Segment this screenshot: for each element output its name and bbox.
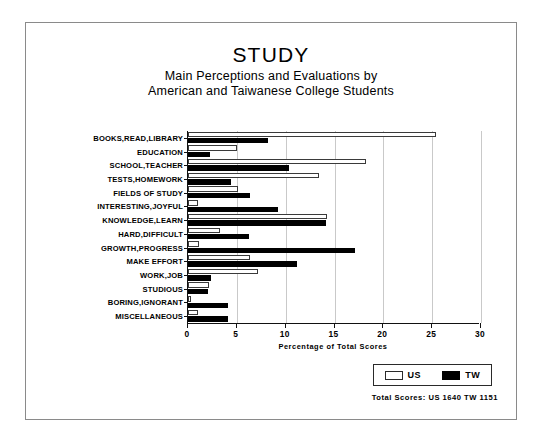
bar-us: [188, 296, 191, 301]
x-axis-tick: [236, 323, 237, 328]
page-title: STUDY: [26, 43, 516, 67]
bar-tw: [188, 165, 289, 170]
chart-row: BOOKS,READ,LIBRARY: [188, 131, 480, 145]
bar-us: [188, 200, 198, 205]
legend-label-tw: TW: [465, 370, 480, 380]
x-axis: 051015202530: [187, 323, 479, 324]
chart-figure: STUDY Main Perceptions and Evaluations b…: [25, 22, 517, 420]
bar-us: [188, 145, 237, 150]
category-label: INTERESTING,JOYFUL: [97, 202, 183, 211]
x-axis-tick: [431, 323, 432, 328]
bar-us: [188, 282, 209, 287]
chart-row: MISCELLANEOUS: [188, 309, 480, 323]
chart-row: HARD,DIFFICULT: [188, 227, 480, 241]
bar-us: [188, 269, 258, 274]
category-label: MISCELLANEOUS: [115, 312, 183, 321]
bar-us: [188, 255, 250, 260]
category-label: KNOWLEDGE,LEARN: [102, 216, 183, 225]
bar-us: [188, 186, 238, 191]
chart-row: TESTS,HOMEWORK: [188, 172, 480, 186]
bar-tw: [188, 289, 208, 294]
category-label: GROWTH,PROGRESS: [101, 243, 183, 252]
x-axis-tick-label: 30: [475, 329, 485, 339]
chart-row: GROWTH,PROGRESS: [188, 241, 480, 255]
x-axis-tick: [334, 323, 335, 328]
gridline: [481, 131, 482, 323]
bar-tw: [188, 248, 355, 253]
legend-entry-tw: TW: [442, 370, 480, 380]
x-axis-tick: [285, 323, 286, 328]
category-label: WORK,JOB: [140, 270, 183, 279]
x-axis-tick-label: 20: [377, 329, 387, 339]
bar-us: [188, 132, 436, 137]
bar-tw: [188, 138, 268, 143]
legend-entry-us: US: [385, 370, 422, 380]
x-axis-tick-label: 10: [280, 329, 290, 339]
bar-us: [188, 228, 220, 233]
bar-us: [188, 173, 319, 178]
category-label: MAKE EFFORT: [127, 257, 184, 266]
legend-swatch-us-icon: [385, 371, 403, 380]
bar-tw: [188, 220, 326, 225]
title-block: STUDY Main Perceptions and Evaluations b…: [26, 43, 516, 99]
category-label: BORING,IGNORANT: [108, 298, 183, 307]
x-axis-tick-label: 0: [185, 329, 190, 339]
chart-subtitle-line-2: American and Taiwanese College Students: [26, 84, 516, 99]
plot-area: BOOKS,READ,LIBRARYEDUCATIONSCHOOL,TEACHE…: [187, 131, 480, 323]
chart-row: KNOWLEDGE,LEARN: [188, 213, 480, 227]
chart-legend: US TW: [373, 364, 492, 386]
category-label: SCHOOL,TEACHER: [110, 161, 183, 170]
category-label: FIELDS OF STUDY: [113, 188, 183, 197]
category-label: TESTS,HOMEWORK: [107, 174, 183, 183]
x-axis-tick-label: 5: [233, 329, 238, 339]
chart-row: FIELDS OF STUDY: [188, 186, 480, 200]
bar-tw: [188, 261, 297, 266]
chart-row: INTERESTING,JOYFUL: [188, 200, 480, 214]
x-axis-tick: [382, 323, 383, 328]
x-axis-tick: [187, 323, 188, 328]
x-axis-tick-label: 15: [329, 329, 339, 339]
chart-row: MAKE EFFORT: [188, 254, 480, 268]
chart-subtitle-line-1: Main Perceptions and Evaluations by: [26, 69, 516, 84]
chart-row: SCHOOL,TEACHER: [188, 158, 480, 172]
bar-tw: [188, 275, 211, 280]
category-label: STUDIOUS: [143, 284, 183, 293]
bar-us: [188, 214, 327, 219]
category-label: HARD,DIFFICULT: [118, 229, 183, 238]
category-label: EDUCATION: [137, 147, 183, 156]
legend-label-us: US: [408, 370, 422, 380]
bar-us: [188, 241, 199, 246]
bar-tw: [188, 207, 278, 212]
chart-row: BORING,IGNORANT: [188, 296, 480, 310]
bar-us: [188, 159, 366, 164]
category-label: BOOKS,READ,LIBRARY: [93, 133, 183, 142]
bar-tw: [188, 179, 231, 184]
x-axis-tick: [480, 323, 481, 328]
bar-tw: [188, 193, 250, 198]
bar-tw: [188, 316, 228, 321]
legend-swatch-tw-icon: [442, 371, 460, 380]
x-axis-title: Percentage of Total Scores: [187, 342, 479, 351]
chart-row: WORK,JOB: [188, 268, 480, 282]
bar-us: [188, 310, 198, 315]
total-scores-annotation: Total Scores: US 1640 TW 1151: [26, 393, 498, 402]
chart-row: EDUCATION: [188, 145, 480, 159]
chart-row: STUDIOUS: [188, 282, 480, 296]
bar-tw: [188, 234, 249, 239]
x-axis-tick-label: 25: [426, 329, 436, 339]
bar-tw: [188, 152, 210, 157]
bar-tw: [188, 303, 228, 308]
